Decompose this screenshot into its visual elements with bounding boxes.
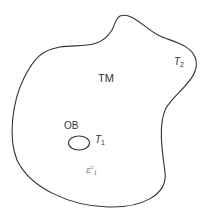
region-label-tm: TM	[98, 73, 114, 84]
boundary-label-t2: T2	[174, 57, 184, 68]
t1-subscript: 1	[101, 139, 105, 146]
region-label-ob: OB	[64, 121, 78, 131]
outer-boundary-curve	[12, 15, 196, 207]
inner-boundary-ellipse	[69, 136, 90, 150]
epsilon-subscript: i	[94, 169, 96, 177]
boundary-label-t1: T1	[95, 135, 105, 146]
t2-subscript: 2	[180, 61, 184, 68]
epsilon-symbol-label: εci	[86, 164, 96, 177]
diagram-canvas	[0, 0, 205, 219]
